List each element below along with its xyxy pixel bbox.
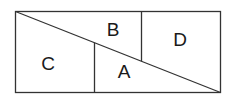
partition-diagram: A B C D	[0, 0, 236, 98]
region-label-c: C	[41, 53, 55, 74]
region-label-b: B	[107, 19, 120, 40]
region-label-a: A	[118, 61, 131, 82]
region-label-d: D	[173, 29, 187, 50]
